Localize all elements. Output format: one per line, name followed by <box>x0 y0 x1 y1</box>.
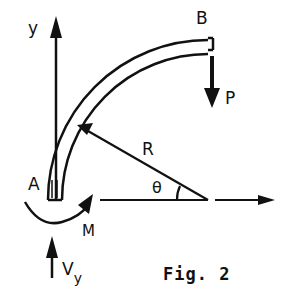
y-axis-arrowhead-icon <box>50 16 62 38</box>
reaction-arrowhead-icon <box>46 236 58 258</box>
reaction-arrow <box>46 236 58 278</box>
point-a-label: A <box>28 174 40 194</box>
y-axis-label: y <box>28 18 38 38</box>
figure-caption: Fig. 2 <box>163 264 230 284</box>
curved-beam <box>48 38 213 200</box>
y-axis <box>50 16 62 200</box>
load-arrowhead-icon <box>204 88 220 108</box>
beam-outer-edge <box>48 40 208 200</box>
radius-line <box>77 123 208 200</box>
point-b-label: B <box>196 8 208 28</box>
moment-arrowhead-icon <box>78 194 93 214</box>
curved-beam-diagram: y B A P R θ M Vy <box>0 0 294 306</box>
moment-arrow <box>25 194 93 223</box>
angle-arc <box>177 186 180 200</box>
load-label: P <box>225 88 235 108</box>
x-axis-arrowhead-icon <box>258 195 275 205</box>
moment-label: M <box>82 222 95 240</box>
angle-label: θ <box>152 178 162 197</box>
reaction-label: Vy <box>62 259 82 286</box>
radius-label: R <box>142 139 154 159</box>
x-axis <box>215 195 275 205</box>
load-arrow <box>204 56 220 108</box>
